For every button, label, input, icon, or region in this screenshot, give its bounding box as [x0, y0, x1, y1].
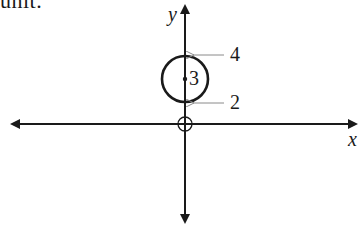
coordinate-plane	[0, 0, 363, 229]
x-axis-label: x	[348, 129, 357, 149]
circle-center-point	[183, 77, 187, 81]
circle-top-value-label: 4	[230, 44, 240, 64]
y-axis-label: y	[168, 4, 177, 24]
circle-bottom-value-label: 2	[230, 92, 240, 112]
circle-center-value-label: 3	[189, 68, 199, 88]
diagram-canvas: unit. y x 4 2 3	[0, 0, 363, 229]
